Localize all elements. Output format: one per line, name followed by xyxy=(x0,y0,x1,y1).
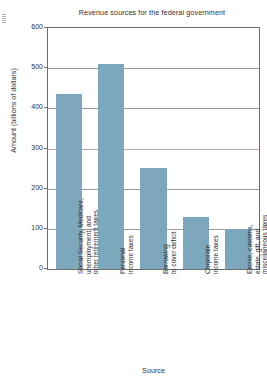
x-category-label-line: unemployment, and xyxy=(85,198,93,274)
y-tick-label: 500 xyxy=(3,63,43,70)
x-category-label-line: other retirement taxes xyxy=(92,198,100,274)
x-category-label-line: miscellaneous taxes xyxy=(261,215,267,274)
y-tick-mark xyxy=(44,188,47,189)
y-tick-mark xyxy=(44,67,47,68)
bar-chart-figure: Revenue sources for the federal governme… xyxy=(0,0,267,388)
x-category-label-line: estate, gift, and xyxy=(253,215,261,274)
x-category-label-line: Excise, customs, xyxy=(246,215,254,274)
y-tick-mark xyxy=(44,228,47,229)
y-tick-mark xyxy=(44,268,47,269)
y-tick-label: 100 xyxy=(3,224,43,231)
x-category-label-line: Social Security, Medicare, xyxy=(77,198,85,274)
x-category-label-line: income taxes xyxy=(211,235,219,274)
x-axis-title: Source xyxy=(47,366,260,375)
y-tick-label: 600 xyxy=(3,23,43,30)
y-tick-mark xyxy=(44,27,47,28)
x-category-label: Personalincome taxes xyxy=(119,235,134,274)
y-tick-label: 300 xyxy=(3,144,43,151)
x-category-label-line: Borrowing xyxy=(162,231,170,274)
y-tick-mark xyxy=(44,107,47,108)
y-tick-label: 200 xyxy=(3,184,43,191)
chart-title: Revenue sources for the federal governme… xyxy=(40,8,264,17)
y-axis-title: Amount (billions of dollars) xyxy=(9,36,18,186)
x-category-label-line: income taxes xyxy=(127,235,135,274)
x-category-label: Excise, customs,estate, gift, andmiscell… xyxy=(246,215,267,274)
y-tick-label: 0 xyxy=(3,264,43,271)
scan-artifact xyxy=(2,14,6,23)
x-category-label-line: to cover deficit xyxy=(169,231,177,274)
x-category-label: Borrowingto cover deficit xyxy=(162,231,177,274)
y-tick-label: 400 xyxy=(3,103,43,110)
x-category-label: Corporateincome taxes xyxy=(204,235,219,274)
x-category-label: Social Security, Medicare,unemployment, … xyxy=(77,198,100,274)
x-category-label-line: Corporate xyxy=(204,235,212,274)
y-tick-mark xyxy=(44,148,47,149)
